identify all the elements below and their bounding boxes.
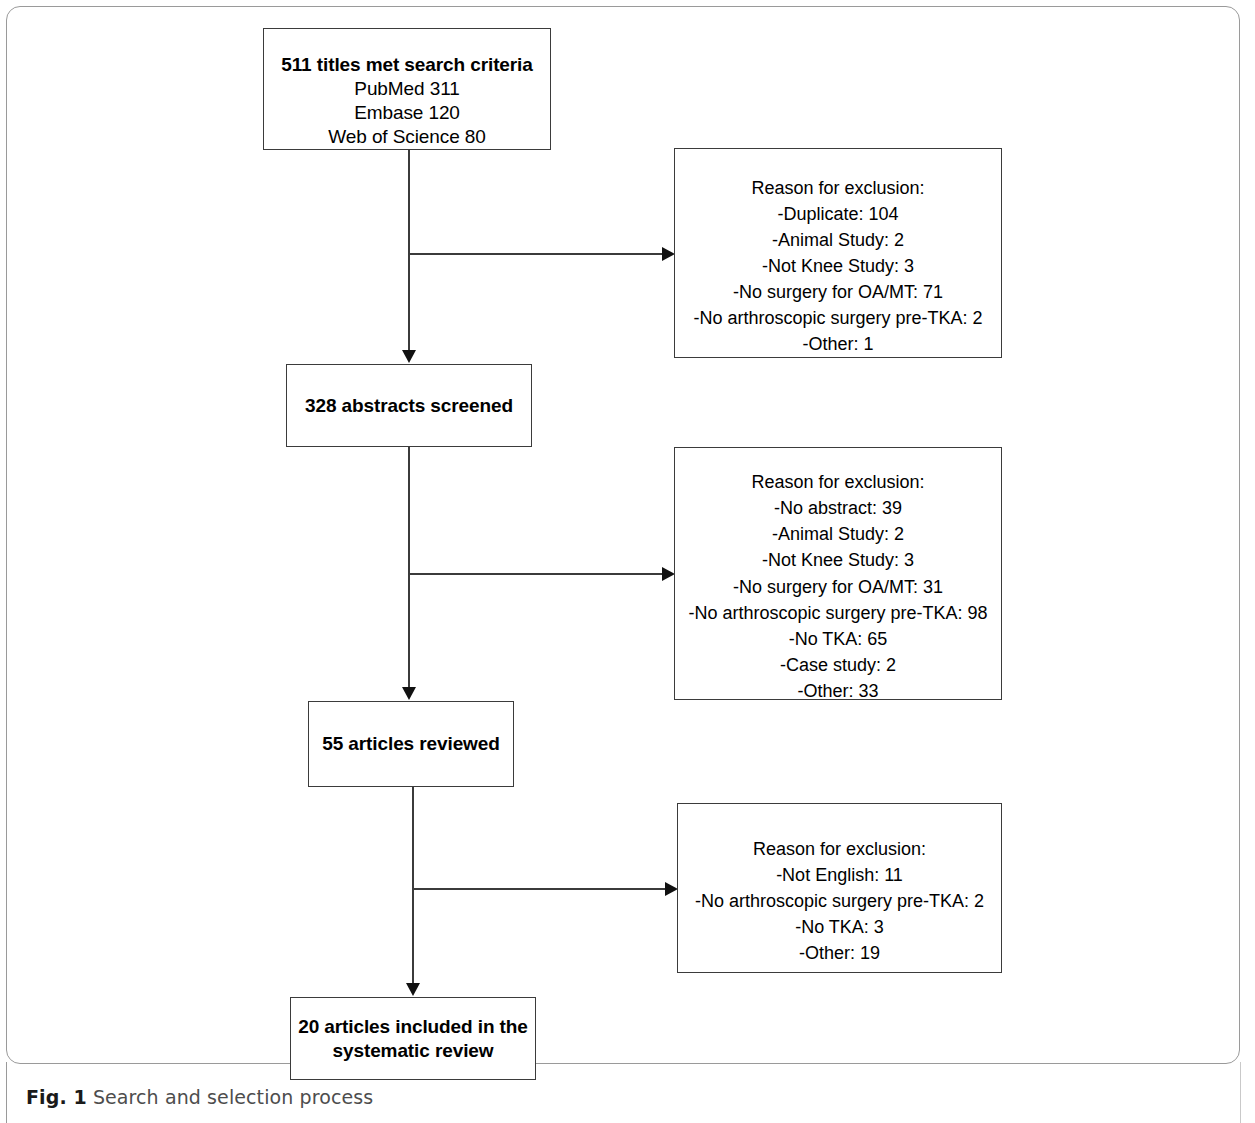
stage-box-articles-included-text: 20 articles included in the systematic r… xyxy=(291,1015,535,1063)
stage-box-articles-reviewed-text: 55 articles reviewed xyxy=(309,732,513,756)
exclusion-box-2-text: Reason for exclusion: -No abstract: 39 -… xyxy=(675,443,1001,704)
arrow-into-stage3 xyxy=(402,687,416,700)
connector-stage1-to-stage2 xyxy=(408,150,410,350)
exclusion-box-3[interactable]: Reason for exclusion: -Not English: 11 -… xyxy=(677,803,1002,973)
stage-box-titles-text: 511 titles met search criteriaPubMed 311… xyxy=(264,29,550,149)
figure-caption: Fig. 1 Search and selection process xyxy=(26,1086,373,1108)
stage-box-abstracts[interactable]: 328 abstracts screened xyxy=(286,364,532,447)
exclusion-box-3-reasons: -Not English: 11 -No arthroscopic surger… xyxy=(695,865,984,963)
connector-stage1-to-exclusion1 xyxy=(408,253,663,255)
connector-stage2-to-stage3 xyxy=(408,447,410,687)
figure-caption-text: Search and selection process xyxy=(93,1086,373,1108)
exclusion-box-3-text: Reason for exclusion: -Not English: 11 -… xyxy=(678,810,1001,967)
exclusion-box-2-reasons: -No abstract: 39 -Animal Study: 2 -Not K… xyxy=(688,498,987,701)
figure-frame xyxy=(6,6,1240,1064)
stage-box-articles-reviewed[interactable]: 55 articles reviewed xyxy=(308,701,514,787)
exclusion-box-3-title: Reason for exclusion: xyxy=(753,839,926,859)
stage-box-titles-details: PubMed 311 Embase 120 Web of Science 80 xyxy=(328,78,485,147)
page-left-rule xyxy=(6,1062,7,1123)
stage-box-abstracts-text: 328 abstracts screened xyxy=(287,394,531,418)
arrow-into-stage4 xyxy=(406,983,420,996)
stage-box-titles-headline: 511 titles met search criteria xyxy=(264,53,550,77)
figure-caption-label: Fig. 1 xyxy=(26,1086,87,1108)
exclusion-box-1-title: Reason for exclusion: xyxy=(751,178,924,198)
exclusion-box-2-title: Reason for exclusion: xyxy=(751,472,924,492)
exclusion-box-1-reasons: -Duplicate: 104 -Animal Study: 2 -Not Kn… xyxy=(693,204,982,354)
exclusion-box-1-text: Reason for exclusion: -Duplicate: 104 -A… xyxy=(675,149,1001,358)
arrow-into-stage2 xyxy=(402,350,416,363)
stage-box-titles[interactable]: 511 titles met search criteriaPubMed 311… xyxy=(263,28,551,150)
figure-page: 511 titles met search criteriaPubMed 311… xyxy=(0,0,1255,1123)
exclusion-box-1[interactable]: Reason for exclusion: -Duplicate: 104 -A… xyxy=(674,148,1002,358)
page-right-rule xyxy=(1240,1062,1241,1123)
connector-stage3-to-exclusion3 xyxy=(412,888,666,890)
connector-stage2-to-exclusion2 xyxy=(408,573,663,575)
stage-box-articles-included[interactable]: 20 articles included in the systematic r… xyxy=(290,997,536,1080)
exclusion-box-2[interactable]: Reason for exclusion: -No abstract: 39 -… xyxy=(674,447,1002,700)
connector-stage3-to-stage4 xyxy=(412,787,414,983)
